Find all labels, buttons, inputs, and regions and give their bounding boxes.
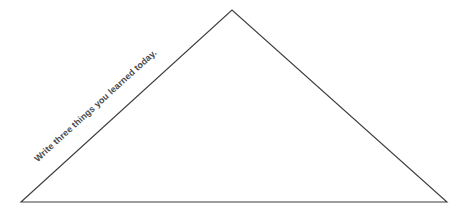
triangle-diagram [0,0,463,214]
triangle-outline [21,10,447,202]
worksheet-canvas: Write three things you learned today. [0,0,463,214]
